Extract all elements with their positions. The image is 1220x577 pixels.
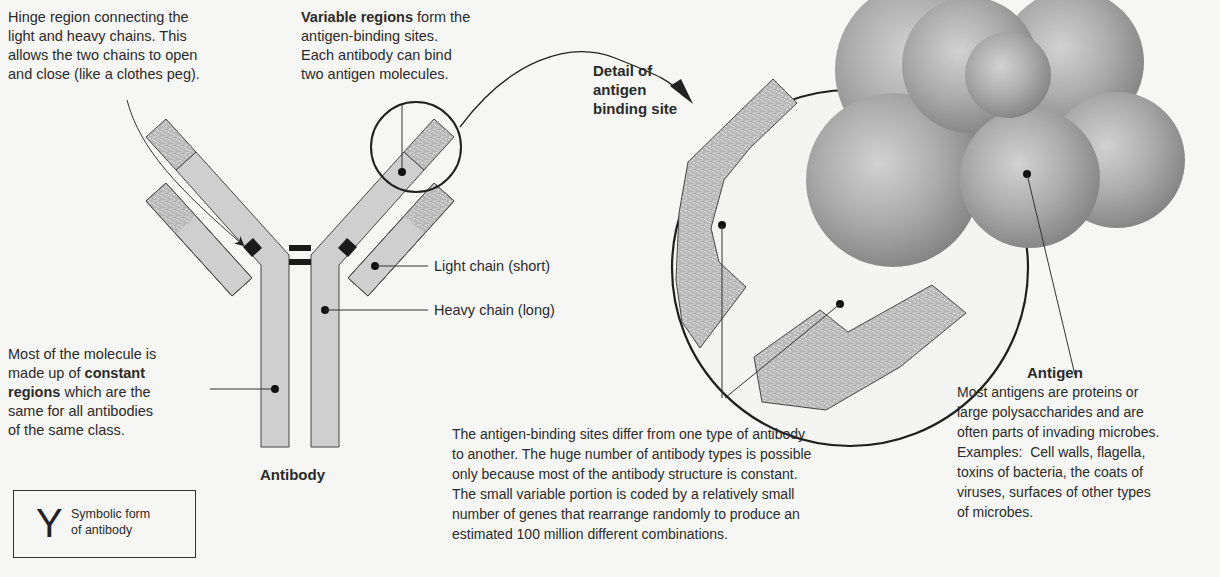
antigen-note: Most antigens are proteins or large poly… — [957, 382, 1159, 522]
binding-note-line: estimated 100 million different combinat… — [452, 524, 811, 544]
antigen-note-line: often parts of invading microbes. — [957, 422, 1159, 442]
hinge-note-line: allows the two chains to open — [8, 46, 200, 65]
hinge-note-line: light and heavy chains. This — [8, 27, 200, 46]
symbolic-form-legend: Y Symbolic form of antibody — [13, 490, 196, 558]
binding-note-line: to another. The huge number of antibody … — [452, 444, 811, 464]
antibody-symbol-icon: Y — [36, 501, 63, 545]
binding-note-line: The antigen-binding sites differ from on… — [452, 424, 811, 444]
constant-note-text: made up of — [8, 365, 85, 381]
constant-regions-note: Most of the molecule is made up of const… — [8, 345, 156, 440]
hinge-note-line: Hinge region connecting the — [8, 8, 200, 27]
constant-note-line: Most of the molecule is — [8, 345, 156, 364]
antigen-note-line: Most antigens are proteins or — [957, 382, 1159, 402]
hinge-region-note: Hinge region connecting the light and he… — [8, 8, 200, 84]
symbolic-label-line: of antibody — [71, 522, 150, 538]
variable-note-line: antigen-binding sites. — [301, 27, 470, 46]
hinge-note-line: and close (like a clothes peg). — [8, 65, 200, 84]
symbolic-label-line: Symbolic form — [71, 506, 150, 522]
antigen-note-line: Examples: Cell walls, flagella, — [957, 442, 1159, 462]
heavy-chain-right — [311, 119, 454, 447]
variable-region-dot — [398, 168, 406, 176]
antigen-note-line: of microbes. — [957, 502, 1159, 522]
detail-title-line: antigen — [593, 80, 677, 99]
variable-note-line: two antigen molecules. — [301, 65, 470, 84]
antigen-note-line: viruses, surfaces of other types — [957, 482, 1159, 502]
variable-note-text: form the — [413, 9, 470, 25]
constant-note-line: of the same class. — [8, 421, 156, 440]
antibody-caption: Antibody — [260, 465, 325, 484]
detail-title: Detail of antigen binding site — [593, 61, 677, 118]
light-chain-label: Light chain (short) — [434, 257, 550, 276]
variable-regions-note: Variable regions form the antigen-bindin… — [301, 8, 470, 84]
disulfide-bond-upper — [289, 245, 311, 251]
variable-regions-term: Variable regions — [301, 9, 413, 25]
variable-note-line: Each antibody can bind — [301, 46, 470, 65]
heavy-chain-label: Heavy chain (long) — [434, 301, 555, 320]
binding-note-line: number of genes that rearrange randomly … — [452, 504, 811, 524]
symbolic-form-label: Symbolic form of antibody — [71, 506, 150, 538]
antigen-molecule-spheres — [806, 0, 1185, 267]
antigen-note-line: toxins of bacteria, the coats of — [957, 462, 1159, 482]
antigen-binding-detail — [672, 0, 1185, 446]
constant-note-text: which are the — [60, 384, 150, 400]
constant-term: regions — [8, 384, 60, 400]
binding-note-line: only because most of the antibody struct… — [452, 464, 811, 484]
constant-note-line: same for all antibodies — [8, 402, 156, 421]
binding-site-note: The antigen-binding sites differ from on… — [452, 424, 811, 544]
heavy-chain-left — [146, 119, 289, 447]
antigen-note-line: large polysaccharides and are — [957, 402, 1159, 422]
detail-title-line: Detail of — [593, 61, 677, 80]
constant-term: constant — [85, 365, 145, 381]
disulfide-bond-lower — [289, 259, 311, 265]
detail-title-line: binding site — [593, 99, 677, 118]
binding-note-line: The small variable portion is coded by a… — [452, 484, 811, 504]
antigen-title: Antigen — [1027, 363, 1083, 382]
